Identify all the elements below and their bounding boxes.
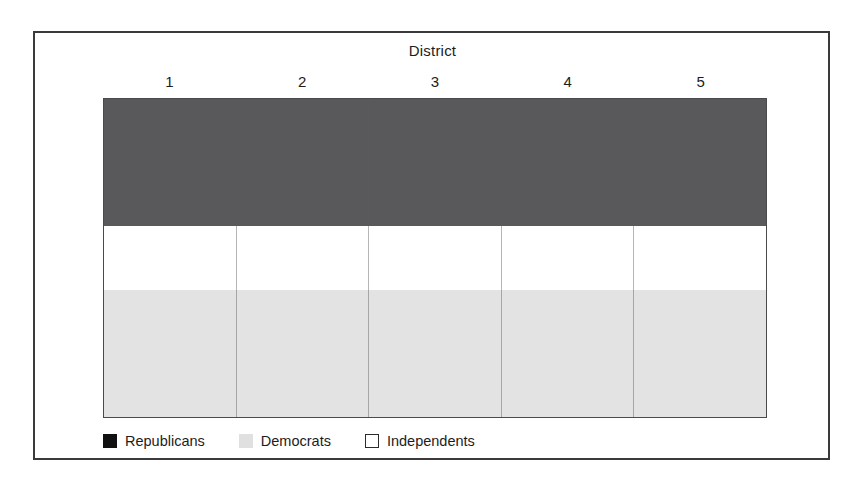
stack-band-democrats xyxy=(104,290,766,417)
legend-item-republicans: Republicans xyxy=(103,433,205,449)
legend-label-democrats: Democrats xyxy=(261,433,331,449)
stack-band-independents xyxy=(104,226,766,290)
stack-band-republicans xyxy=(104,99,766,226)
x-tick-label-5: 5 xyxy=(634,69,767,95)
chart-title: District xyxy=(35,42,828,59)
chart-figure: District 1 2 3 4 5 Republicans Democrats xyxy=(33,31,830,460)
chart-legend: Republicans Democrats Independents xyxy=(103,429,509,453)
democrats-swatch-icon xyxy=(239,434,253,448)
republicans-swatch-icon xyxy=(103,434,117,448)
legend-item-democrats: Democrats xyxy=(239,433,331,449)
independents-swatch-icon xyxy=(365,434,379,448)
x-tick-label-3: 3 xyxy=(369,69,502,95)
x-axis-tick-labels: 1 2 3 4 5 xyxy=(103,69,767,95)
plot-area xyxy=(103,98,767,418)
x-tick-label-2: 2 xyxy=(236,69,369,95)
x-tick-label-1: 1 xyxy=(103,69,236,95)
chart-title-text: District xyxy=(409,42,456,59)
legend-item-independents: Independents xyxy=(365,433,475,449)
legend-label-republicans: Republicans xyxy=(125,433,205,449)
legend-label-independents: Independents xyxy=(387,433,475,449)
x-tick-label-4: 4 xyxy=(501,69,634,95)
